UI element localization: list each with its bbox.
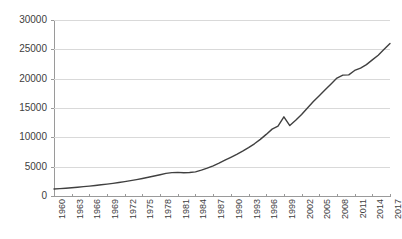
x-tick-label-1969: 1969 xyxy=(111,199,120,219)
x-tickmark-2008 xyxy=(337,194,338,197)
x-tick-label-2008: 2008 xyxy=(341,199,350,219)
x-tickmark-1996 xyxy=(266,194,267,197)
x-tick-label-2005: 2005 xyxy=(323,199,332,219)
x-tickmark-1993 xyxy=(249,194,250,197)
x-tickmark-2002 xyxy=(302,194,303,197)
x-tick-label-1960: 1960 xyxy=(58,199,67,219)
x-axis-tick-labels: 1960196319661969197219751978198119841987… xyxy=(54,197,390,239)
x-tickmark-2005 xyxy=(319,194,320,197)
x-tick-label-1990: 1990 xyxy=(235,199,244,219)
x-tick-label-1975: 1975 xyxy=(146,199,155,219)
y-tick-label-15000: 15000 xyxy=(19,103,47,113)
x-tickmark-1990 xyxy=(231,194,232,197)
y-tick-label-25000: 25000 xyxy=(19,44,47,54)
x-tick-label-1966: 1966 xyxy=(93,199,102,219)
y-tick-label-10000: 10000 xyxy=(19,132,47,142)
x-tickmark-1972 xyxy=(125,194,126,197)
x-tick-label-1996: 1996 xyxy=(270,199,279,219)
data-series-line xyxy=(54,20,390,196)
x-tick-label-1987: 1987 xyxy=(217,199,226,219)
y-tick-label-5000: 5000 xyxy=(25,162,47,172)
x-tick-label-1978: 1978 xyxy=(164,199,173,219)
x-tickmark-1987 xyxy=(213,194,214,197)
x-tickmark-1999 xyxy=(284,194,285,197)
x-tickmark-2017 xyxy=(390,194,391,197)
x-tick-label-1981: 1981 xyxy=(182,199,191,219)
x-tickmark-1978 xyxy=(160,194,161,197)
y-tick-label-20000: 20000 xyxy=(19,74,47,84)
x-tick-label-2002: 2002 xyxy=(306,199,315,219)
y-tick-label-0: 0 xyxy=(41,191,47,201)
y-axis-tick-labels: 050001000015000200002500030000 xyxy=(0,0,51,239)
x-tick-label-2014: 2014 xyxy=(376,199,385,219)
x-tick-label-1963: 1963 xyxy=(76,199,85,219)
x-tickmark-1975 xyxy=(142,194,143,197)
x-tickmark-1981 xyxy=(178,194,179,197)
x-tickmark-2011 xyxy=(355,194,356,197)
x-tick-label-2011: 2011 xyxy=(359,199,368,218)
x-tick-label-1984: 1984 xyxy=(199,199,208,219)
x-tickmark-1966 xyxy=(89,194,90,197)
x-tick-label-1972: 1972 xyxy=(129,199,138,219)
y-tick-label-30000: 30000 xyxy=(19,15,47,25)
x-tickmark-1984 xyxy=(195,194,196,197)
line-chart: 050001000015000200002500030000 196019631… xyxy=(0,0,402,239)
x-tickmark-1969 xyxy=(107,194,108,197)
x-tick-label-1999: 1999 xyxy=(288,199,297,219)
x-tickmark-1960 xyxy=(54,194,55,197)
plot-area xyxy=(54,20,390,196)
x-tick-label-2017: 2017 xyxy=(394,199,402,219)
x-tickmark-1963 xyxy=(72,194,73,197)
series-polyline xyxy=(54,43,390,188)
x-tickmark-2014 xyxy=(372,194,373,197)
x-tick-label-1993: 1993 xyxy=(253,199,262,219)
